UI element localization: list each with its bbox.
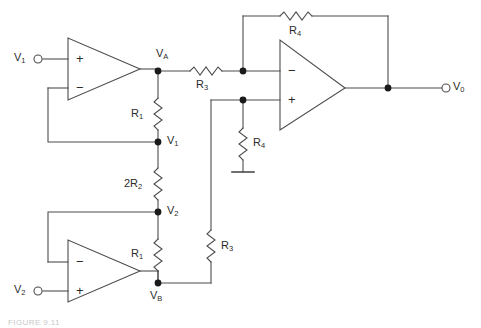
resistor-label-r4-feedback: R4 xyxy=(289,25,301,38)
resistor-label-r4-ground: R4 xyxy=(253,137,265,150)
node-label-v2: V2 xyxy=(167,205,179,218)
resistor-label-r3-upper: R3 xyxy=(196,79,208,92)
resistor-label-r4-feedback-text: R xyxy=(289,24,297,36)
resistor-label-r1-upper: R1 xyxy=(131,108,143,121)
terminal-label-v2-sub: 2 xyxy=(21,288,25,297)
junction-dot-noninverting-node xyxy=(240,97,247,104)
resistor-label-r3-upper-text: R xyxy=(196,78,204,90)
resistor-label-r3-lower: R3 xyxy=(221,240,233,253)
resistor-r1-upper-zigzag xyxy=(154,98,162,130)
resistor-r3-lower-zigzag xyxy=(207,230,215,262)
junction-dot-v1 xyxy=(155,139,162,146)
opamp-bottom-plus-sign: + xyxy=(76,284,84,297)
node-label-v2-sub: 2 xyxy=(174,209,178,218)
schematic-canvas xyxy=(0,0,481,328)
node-label-vb: VB xyxy=(150,290,162,303)
junction-dot-output xyxy=(385,85,392,92)
node-label-vb-sub: B xyxy=(157,294,162,303)
resistor-r1-lower-zigzag xyxy=(154,239,162,271)
node-label-va: VA xyxy=(156,48,168,61)
junction-dot-v2 xyxy=(155,209,162,216)
junction-dot-vb xyxy=(155,280,162,287)
terminal-label-v2: V2 xyxy=(14,284,26,297)
terminal-circle-v0 xyxy=(442,84,450,92)
resistor-label-2r2: 2R2 xyxy=(124,178,142,191)
resistor-2r2-zigzag xyxy=(154,168,162,200)
resistor-r3-upper-zigzag xyxy=(190,67,222,75)
resistor-label-2r2-sub: 2 xyxy=(138,182,142,191)
terminal-label-v0-sub: 0 xyxy=(460,85,464,94)
opamp-output-minus-sign: − xyxy=(288,64,296,77)
resistor-label-r3-lower-sub: 3 xyxy=(229,244,233,253)
resistor-label-r4-feedback-sub: 4 xyxy=(297,29,301,38)
node-label-va-sub: A xyxy=(163,52,168,61)
resistor-label-r3-upper-sub: 3 xyxy=(204,83,208,92)
opamp-output-plus-sign: + xyxy=(288,93,296,106)
junction-dot-va xyxy=(155,68,162,75)
node-label-v1-sub: 1 xyxy=(174,139,178,148)
terminal-label-v1: V1 xyxy=(14,52,26,65)
resistor-r4-feedback-zigzag xyxy=(280,12,312,20)
circuit-schematic-figure: + − − + − + V1 V2 V0 VA V1 V2 VB R1 2R2 … xyxy=(0,0,481,328)
resistor-label-2r2-text: 2R xyxy=(124,177,138,189)
node-label-v1: V1 xyxy=(167,135,179,148)
resistor-label-r4-ground-sub: 4 xyxy=(261,141,265,150)
opamp-bottom-minus-sign: − xyxy=(76,255,84,268)
terminal-circle-v1 xyxy=(34,55,42,63)
junction-dot-inverting-node xyxy=(240,68,247,75)
terminal-label-v0: V0 xyxy=(453,81,465,94)
terminal-circle-v2 xyxy=(34,287,42,295)
resistor-r4-ground-zigzag xyxy=(239,128,247,160)
resistor-label-r1-lower: R1 xyxy=(131,248,143,261)
opamp-top-minus-sign: − xyxy=(76,81,84,94)
resistor-label-r1-lower-text: R xyxy=(131,247,139,259)
opamp-top-plus-sign: + xyxy=(76,52,84,65)
resistor-label-r1-lower-sub: 1 xyxy=(139,252,143,261)
terminal-label-v1-sub: 1 xyxy=(21,56,25,65)
resistor-label-r1-upper-sub: 1 xyxy=(139,112,143,121)
resistor-label-r1-upper-text: R xyxy=(131,107,139,119)
resistor-label-r4-ground-text: R xyxy=(253,136,261,148)
resistor-label-r3-lower-text: R xyxy=(221,239,229,251)
opamp-output-body xyxy=(280,40,345,130)
figure-caption: FIGURE 9.11 xyxy=(8,318,60,327)
